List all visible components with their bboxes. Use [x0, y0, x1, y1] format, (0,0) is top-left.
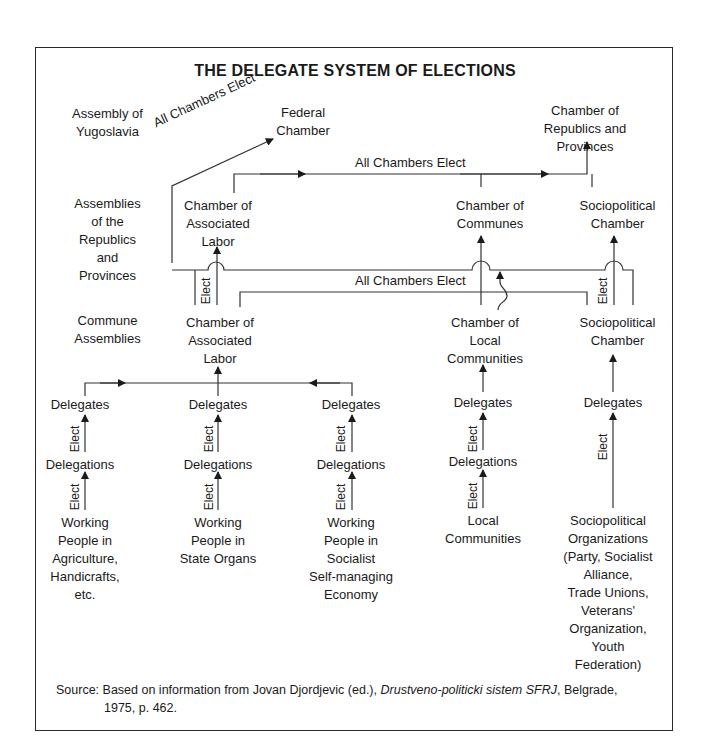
- connector-lines: [0, 0, 710, 740]
